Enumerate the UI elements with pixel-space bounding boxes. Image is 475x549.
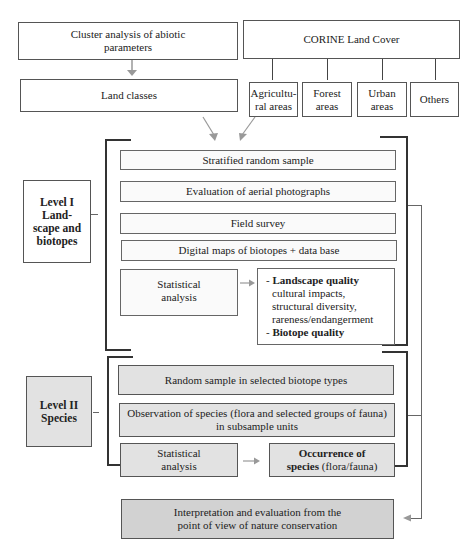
level2-label-1: Level II (40, 399, 79, 412)
cluster-analysis-label: Cluster analysis of abiotic parameters (53, 28, 203, 54)
level1-label-2: Land- (42, 209, 72, 222)
connector (435, 59, 436, 80)
level1-quality-result: - Landscape quality cultural impacts, st… (257, 268, 395, 345)
detail: cultural impacts, (266, 287, 345, 300)
stat-label-1: Statistical (157, 278, 200, 291)
biotope-quality-item: - Biotope quality (266, 326, 344, 339)
step-observation-species: Observation of species (flora and select… (119, 403, 395, 437)
agricultural-label-2: ral areas (255, 100, 292, 113)
corine-agricultural-box: Agricultu- ral areas (249, 82, 298, 117)
connector (382, 59, 383, 80)
forest-label-1: Forest (313, 87, 341, 100)
cluster-analysis-box: Cluster analysis of abiotic parameters (18, 22, 238, 60)
corine-box: CORINE Land Cover (243, 20, 460, 59)
land-classes-label: Land classes (101, 89, 157, 102)
arrow-left-icon (403, 514, 415, 522)
occurrence-species-result: Occurrence of species (flora/fauna) (269, 443, 395, 477)
corine-title: CORINE Land Cover (304, 33, 400, 46)
step-stratified-sample: Stratified random sample (120, 150, 396, 170)
detail: rareness/endangerment (266, 313, 373, 326)
feedback-line (408, 205, 422, 206)
final-label-2: point of view of nature conservation (178, 519, 338, 532)
observation-label-1: Observation of species (flora and select… (127, 407, 387, 420)
corine-urban-box: Urban areas (357, 82, 407, 117)
level1-bracket (105, 140, 107, 350)
landscape-quality-item: - Landscape quality (266, 274, 359, 287)
land-classes-box: Land classes (20, 79, 238, 112)
bracket-tick (380, 136, 408, 138)
level1-label: Level I (40, 196, 74, 209)
detail: structural diversity, (266, 300, 357, 313)
step-random-sample-biotope: Random sample in selected biotope types (118, 365, 394, 395)
final-label-1: Interpretation and evaluation from the (174, 506, 341, 519)
level1-label-3: scape and (33, 222, 81, 235)
step-label: Random sample in selected biotope types (165, 374, 347, 387)
step-digital-maps: Digital maps of biotopes + data base (121, 240, 397, 261)
corine-others-box: Others (410, 82, 459, 117)
corine-forest-box: Forest areas (302, 82, 352, 117)
urban-label-2: areas (371, 100, 394, 113)
agricultural-label-1: Agricultu- (251, 87, 297, 100)
step-field-survey: Field survey (120, 213, 396, 234)
level2-statistical-analysis: Statistical analysis (120, 443, 238, 477)
level2-label-box: Level II Species (26, 376, 92, 447)
others-label: Others (420, 93, 449, 106)
feedback-line (408, 415, 422, 416)
connector (93, 412, 99, 413)
stat-label-2: analysis (161, 291, 196, 304)
step-label: Stratified random sample (202, 154, 313, 167)
species-label: species (flora/fauna) (287, 460, 378, 473)
feedback-line (421, 205, 422, 519)
bracket-tick (382, 351, 408, 353)
arrow-right-icon (240, 279, 256, 287)
occurrence-label: Occurrence of (299, 447, 366, 460)
arrow-down-icon (126, 60, 138, 77)
level1-label-box: Level I Land- scape and biotopes (23, 180, 91, 263)
connector (91, 214, 98, 215)
urban-label-1: Urban (368, 87, 396, 100)
stat-label-2: analysis (161, 460, 196, 473)
arrow-right-icon (243, 457, 261, 465)
bracket-tick (107, 356, 133, 358)
level2-bracket (107, 357, 109, 465)
connector (272, 59, 273, 80)
bracket-tick (105, 349, 131, 351)
level1-statistical-analysis: Statistical analysis (120, 269, 238, 316)
level1-bracket-right (406, 137, 408, 345)
level1-label-4: biotopes (37, 235, 78, 248)
bracket-tick (105, 139, 131, 141)
arrow-diagonal-icon (190, 115, 270, 145)
final-interpretation-box: Interpretation and evaluation from the p… (121, 499, 394, 539)
level2-bracket-right (406, 352, 408, 466)
step-label: Field survey (231, 217, 286, 230)
step-label: Digital maps of biotopes + data base (179, 244, 340, 257)
observation-label-2: in subsample units (216, 420, 298, 433)
forest-label-2: areas (316, 100, 339, 113)
level2-label-2: Species (41, 412, 77, 425)
step-aerial-photographs: Evaluation of aerial photographs (120, 181, 396, 202)
step-label: Evaluation of aerial photographs (186, 185, 330, 198)
connector (327, 59, 328, 80)
stat-label-1: Statistical (157, 447, 200, 460)
